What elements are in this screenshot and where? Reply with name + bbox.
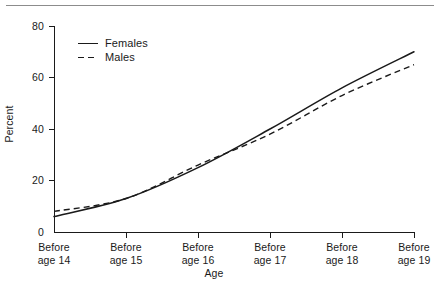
x-tick-label-line1: Before <box>378 241 438 254</box>
legend-label-males: Males <box>105 51 135 63</box>
x-tick-label-before-age-15: Before age 15 <box>90 241 162 266</box>
chart-legend: Females Males <box>77 36 148 64</box>
x-tick-label-line2: age 18 <box>306 254 378 267</box>
x-axis-label: Age <box>205 267 224 279</box>
x-tick-label-before-age-19: Before age 19 <box>378 241 438 266</box>
x-tick-label-before-age-14: Before age 14 <box>18 241 90 266</box>
y-tick-label-40: 40 <box>14 123 44 135</box>
x-tick-label-before-age-18: Before age 18 <box>306 241 378 266</box>
x-tick-label-line1: Before <box>90 241 162 254</box>
legend-swatch-solid-line-icon <box>77 38 99 48</box>
x-tick-label-line2: age 17 <box>234 254 306 267</box>
x-tick-label-line1: Before <box>162 241 234 254</box>
y-tick-label-60: 60 <box>14 71 44 83</box>
x-tick-label-line2: age 16 <box>162 254 234 267</box>
x-axis-label-wrap: Age <box>0 267 438 279</box>
x-tick-label-line1: Before <box>234 241 306 254</box>
x-tick-label-before-age-17: Before age 17 <box>234 241 306 266</box>
y-tick-label-20: 20 <box>14 174 44 186</box>
chart-figure: Percent 80 60 40 20 0 Before age 14 Befo… <box>0 0 438 291</box>
legend-label-females: Females <box>105 37 148 49</box>
series-line-males <box>54 65 414 212</box>
legend-item-males: Males <box>77 50 148 64</box>
series-line-females <box>54 52 414 217</box>
legend-item-females: Females <box>77 36 148 50</box>
x-tick-label-line1: Before <box>18 241 90 254</box>
y-tick-marks <box>49 27 54 181</box>
x-tick-label-line1: Before <box>306 241 378 254</box>
x-tick-label-line2: age 14 <box>18 254 90 267</box>
legend-swatch-dashed-line-icon <box>77 52 99 62</box>
x-tick-label-line2: age 15 <box>90 254 162 267</box>
x-tick-label-before-age-16: Before age 16 <box>162 241 234 266</box>
y-tick-label-80: 80 <box>14 20 44 32</box>
y-tick-label-0: 0 <box>14 226 44 238</box>
x-tick-label-line2: age 19 <box>378 254 438 267</box>
